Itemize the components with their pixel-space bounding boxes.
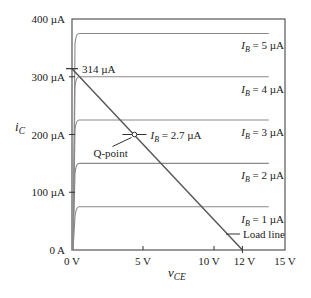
x-tick-label: 0 V [64, 255, 80, 267]
load-line-label: Load line [243, 228, 285, 240]
x-tick-label: 12 V [234, 255, 256, 267]
intercept-label: 314 µA [82, 63, 116, 75]
q-point-marker [132, 132, 137, 137]
y-tick-label: 0 A [49, 244, 65, 256]
transistor-characteristics-chart: IB = 1 µAIB = 2 µAIB = 3 µAIB = 4 µAIB =… [0, 0, 311, 298]
labels: iCvCE [15, 119, 186, 282]
ib-curve-label-1: IB = 1 µA [240, 213, 284, 228]
ib-curve-label-5: IB = 5 µA [240, 39, 284, 54]
q-point-annotation: IB = 2.7 µA [149, 129, 201, 144]
y-tick-label: 100 µA [31, 186, 65, 198]
q-point-pointer [112, 138, 131, 147]
ib-curve-1 [73, 207, 269, 250]
y-axis-label: iC [15, 119, 26, 136]
x-tick-label: 5 V [135, 255, 151, 267]
x-tick-label: 15 V [274, 255, 296, 267]
x-axis-label: vCE [168, 265, 186, 282]
load-line-path [72, 69, 242, 250]
q-point-label: Q-point [93, 147, 127, 159]
y-tick-label: 300 µA [31, 71, 65, 83]
ib-curve-label-3: IB = 3 µA [240, 126, 284, 141]
ib-curve-label-2: IB = 2 µA [240, 169, 284, 184]
x-tick-label: 10 V [198, 255, 220, 267]
y-tick-label: 400 µA [31, 13, 65, 25]
y-tick-label: 200 µA [31, 129, 65, 141]
ib-curve-label-4: IB = 4 µA [240, 83, 284, 98]
